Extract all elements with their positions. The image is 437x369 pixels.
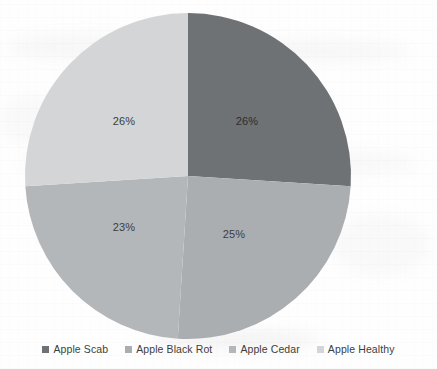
legend-item-label: Apple Black Rot bbox=[136, 343, 212, 355]
legend-swatch-icon bbox=[42, 346, 49, 353]
pie-plot-area bbox=[0, 0, 437, 349]
pie-slice-value-label: 23% bbox=[113, 221, 136, 233]
pie-chart-figure: 26%25%23%26% Apple ScabApple Black RotAp… bbox=[0, 0, 437, 369]
pie-slice[interactable] bbox=[188, 13, 351, 186]
legend-item[interactable]: Apple Scab bbox=[42, 343, 108, 355]
legend-swatch-icon bbox=[125, 346, 132, 353]
legend-item-label: Apple Healthy bbox=[328, 343, 395, 355]
legend-item[interactable]: Apple Healthy bbox=[317, 343, 395, 355]
legend-swatch-icon bbox=[317, 346, 324, 353]
pie-svg bbox=[0, 0, 437, 345]
pie-slice-value-label: 25% bbox=[223, 228, 246, 240]
pie-slice[interactable] bbox=[25, 176, 188, 339]
legend-item[interactable]: Apple Cedar bbox=[229, 343, 299, 355]
pie-slice-value-label: 26% bbox=[236, 115, 259, 127]
pie-slice[interactable] bbox=[25, 13, 188, 186]
pie-slice-value-label: 26% bbox=[113, 115, 136, 127]
legend-item-label: Apple Scab bbox=[53, 343, 108, 355]
legend-item-label: Apple Cedar bbox=[240, 343, 299, 355]
pie-slice[interactable] bbox=[178, 176, 351, 339]
legend-swatch-icon bbox=[229, 346, 236, 353]
legend-item[interactable]: Apple Black Rot bbox=[125, 343, 212, 355]
chart-legend: Apple ScabApple Black RotApple CedarAppl… bbox=[0, 343, 437, 355]
